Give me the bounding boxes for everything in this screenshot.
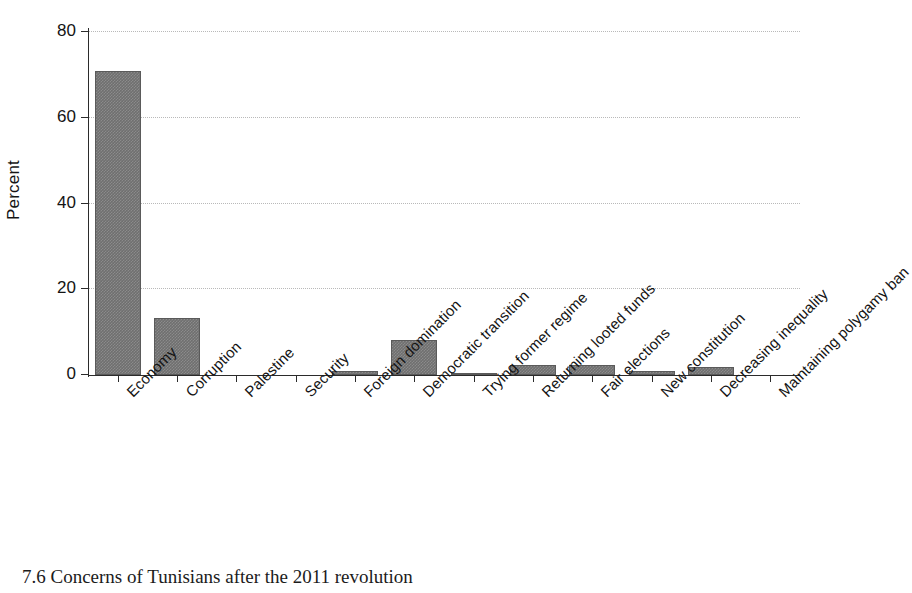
gridline-20 — [88, 288, 800, 289]
x-axis-label-returning-looted-funds: Returning looted funds — [538, 280, 658, 400]
x-tick-mark-3 — [296, 375, 297, 382]
y-tick-mark-20 — [81, 288, 88, 289]
figure-caption: 7.6 Concerns of Tunisians after the 2011… — [22, 566, 413, 588]
x-axis-label-decreasing-inequality: Decreasing inequality — [716, 285, 831, 400]
x-axis-label-foreign-domination: Foreign domination — [360, 296, 464, 400]
gridline-80 — [88, 31, 800, 32]
chart-plot-area: Percent 0 20 40 60 80 EconomyCorruptionP… — [0, 0, 803, 560]
x-tick-mark-7 — [533, 375, 534, 382]
y-axis-title: Percent — [4, 130, 24, 250]
y-tick-mark-0 — [81, 374, 88, 375]
scan-artifact — [759, 548, 785, 566]
x-tick-mark-6 — [474, 375, 475, 382]
x-axis-label-palestine: Palestine — [241, 344, 297, 400]
gridline-60 — [88, 117, 800, 118]
y-tick-label-20: 20 — [30, 278, 76, 298]
x-axis-label-trying-former-regime: Trying former regime — [479, 289, 590, 400]
y-tick-mark-60 — [81, 117, 88, 118]
x-tick-mark-5 — [414, 375, 415, 382]
x-tick-mark-11 — [770, 375, 771, 382]
x-tick-mark-9 — [652, 375, 653, 382]
x-tick-mark-8 — [592, 375, 593, 382]
y-tick-label-60: 60 — [30, 107, 76, 127]
x-tick-mark-4 — [355, 375, 356, 382]
y-tick-label-0: 0 — [30, 364, 76, 384]
y-tick-mark-40 — [81, 203, 88, 204]
y-axis-line — [88, 28, 89, 377]
x-tick-mark-1 — [177, 375, 178, 382]
y-tick-label-80: 80 — [30, 21, 76, 41]
x-tick-mark-0 — [118, 375, 119, 382]
y-axis-tick-labels: 0 20 40 60 80 — [26, 0, 76, 560]
y-tick-label-40: 40 — [30, 193, 76, 213]
y-tick-mark-80 — [81, 31, 88, 32]
gridline-40 — [88, 203, 800, 204]
x-tick-mark-2 — [236, 375, 237, 382]
x-tick-mark-10 — [711, 375, 712, 382]
bar-economy — [95, 71, 141, 375]
